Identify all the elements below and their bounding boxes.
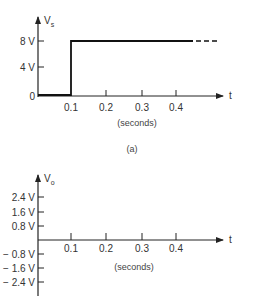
vo-chart: Vo t 2.4 V 1.6 V 0.8 V − 0.8 V − 1.6 V −…	[3, 173, 232, 296]
vs-xtick-label-01: 0.1	[64, 102, 78, 113]
vo-x-unit: (seconds)	[114, 262, 154, 272]
figure: Vs t 8 V 4 V 0 0.1 0.2 0.3 0.4 (seconds)…	[0, 0, 253, 296]
vs-ytick-label-4: 4 V	[20, 62, 35, 73]
vs-ylabel: Vs	[44, 15, 55, 28]
vo-ytick-label-m24: − 2.4 V	[3, 277, 35, 288]
vs-step-signal	[38, 41, 193, 95]
vs-x-unit: (seconds)	[117, 118, 157, 128]
vo-xtick-label-03: 0.3	[135, 243, 149, 254]
vo-ytick-label-m16: − 1.6 V	[3, 263, 35, 274]
vs-chart: Vs t 8 V 4 V 0 0.1 0.2 0.3 0.4 (seconds)…	[20, 15, 232, 154]
vs-xlabel: t	[229, 90, 232, 101]
vs-xtick-label-04: 0.4	[169, 102, 183, 113]
vo-ytick-label-p08: 0.8 V	[12, 221, 36, 232]
vo-ytick-label-m08: − 0.8 V	[3, 249, 35, 260]
vo-ylabel: Vo	[44, 173, 55, 186]
vs-ytick-label-8: 8 V	[20, 36, 35, 47]
caption-a: (a)	[127, 144, 138, 154]
vs-xtick-label-03: 0.3	[135, 102, 149, 113]
vs-ytick-label-0: 0	[29, 91, 35, 102]
vo-xtick-label-02: 0.2	[99, 243, 113, 254]
vo-xlabel: t	[229, 234, 232, 245]
vo-ytick-label-p16: 1.6 V	[12, 207, 36, 218]
vo-xtick-label-04: 0.4	[169, 243, 183, 254]
vo-ytick-label-p24: 2.4 V	[12, 192, 36, 203]
vo-xtick-label-01: 0.1	[64, 243, 78, 254]
vs-xtick-label-02: 0.2	[99, 102, 113, 113]
